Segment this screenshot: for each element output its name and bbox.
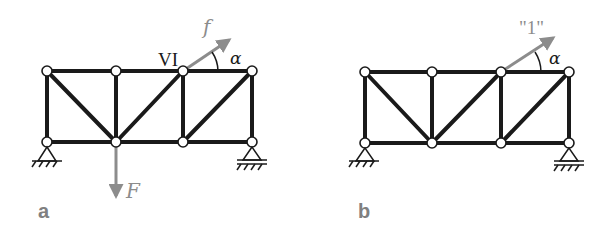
roller-support-a	[237, 147, 267, 170]
angle-arc-b	[535, 52, 541, 72]
pin-support-b	[349, 148, 379, 167]
unit-load-arrow	[504, 38, 553, 70]
force-f-arrow	[186, 40, 229, 69]
angle-arc-a	[212, 52, 218, 71]
pin-support-a	[32, 147, 62, 167]
panel-label-a: a	[38, 200, 50, 222]
force-label-f: f	[201, 15, 214, 39]
angle-label-a: α	[230, 48, 242, 68]
roller-support-b	[554, 148, 584, 171]
unit-load-label: "1"	[519, 17, 544, 38]
truss-figure: VI f α F a	[0, 0, 614, 235]
truss-members-b	[365, 72, 569, 143]
load-label-F: F	[125, 179, 141, 203]
panel-b: "1" α b	[349, 17, 584, 222]
panel-label-b: b	[358, 200, 370, 222]
truss-members-a	[47, 71, 252, 142]
panel-a: VI f α F a	[32, 15, 267, 222]
angle-label-b: α	[549, 48, 561, 68]
node-label-VI: VI	[158, 49, 178, 70]
